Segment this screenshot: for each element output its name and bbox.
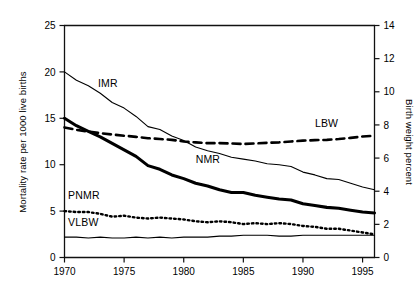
pnmr-label: PNMR — [68, 189, 100, 201]
y-axis-title: Mortality rate per 1000 live births — [17, 71, 28, 212]
x-tick-label: 1985 — [232, 266, 255, 277]
x-tick-label: 1970 — [53, 266, 76, 277]
x-tick-label: 1995 — [351, 266, 374, 277]
y-tick-label: 20 — [44, 67, 56, 78]
x-tick-label: 1990 — [292, 266, 315, 277]
y2-axis-title: Birth weight percent — [404, 99, 415, 185]
y-tick-label: 25 — [44, 20, 56, 31]
y2-tick-label: 12 — [384, 53, 396, 64]
x-tick-label: 1980 — [173, 266, 196, 277]
lbw-label: LBW — [315, 117, 338, 129]
y-tick-label: 10 — [44, 159, 56, 170]
chart-figure: 0510152025 02468101214 19701975198019851… — [0, 0, 420, 297]
y2-tick-label: 8 — [384, 120, 390, 131]
imr-label: IMR — [98, 77, 118, 89]
chart-background — [0, 0, 420, 297]
line-chart: 0510152025 02468101214 19701975198019851… — [0, 0, 420, 297]
y-tick-label: 15 — [44, 113, 56, 124]
y2-tick-label: 6 — [384, 153, 390, 164]
y-tick-label: 5 — [50, 206, 56, 217]
y2-tick-label: 10 — [384, 86, 396, 97]
nmr-label: NMR — [196, 153, 221, 165]
y2-tick-label: 4 — [384, 186, 390, 197]
y2-tick-label: 2 — [384, 219, 390, 230]
y2-tick-label: 0 — [384, 252, 390, 263]
vlbw-label: VLBW — [68, 216, 99, 228]
x-tick-label: 1975 — [113, 266, 136, 277]
y2-tick-label: 14 — [384, 20, 396, 31]
y-tick-label: 0 — [50, 252, 56, 263]
